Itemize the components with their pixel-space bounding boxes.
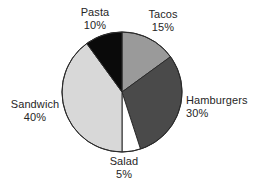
pie-slice-group: [62, 32, 182, 152]
pie-label-salad-name: Salad: [96, 155, 152, 168]
pie-label-salad-percent: 5%: [96, 168, 152, 181]
pie-chart: Pasta 10% Tacos 15% Hamburgers 30% Sandw…: [0, 0, 262, 190]
pie-label-sandwich-percent: 40%: [2, 111, 68, 124]
pie-label-tacos-percent: 15%: [134, 21, 192, 34]
pie-label-pasta-name: Pasta: [66, 6, 124, 19]
pie-label-pasta: Pasta 10%: [66, 6, 124, 31]
pie-label-sandwich-name: Sandwich: [2, 98, 68, 111]
pie-label-hamburgers: Hamburgers 30%: [186, 94, 262, 119]
pie-label-tacos: Tacos 15%: [134, 8, 192, 33]
pie-label-hamburgers-name: Hamburgers: [186, 94, 262, 107]
pie-label-hamburgers-percent: 30%: [186, 107, 262, 120]
pie-label-tacos-name: Tacos: [134, 8, 192, 21]
pie-label-sandwich: Sandwich 40%: [2, 98, 68, 123]
pie-label-pasta-percent: 10%: [66, 19, 124, 32]
pie-label-salad: Salad 5%: [96, 155, 152, 180]
